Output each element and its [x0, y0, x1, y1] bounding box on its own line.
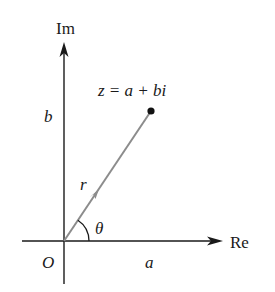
- angle-label: θ: [95, 220, 103, 237]
- point-z: [147, 107, 154, 114]
- modulus-vector: [64, 111, 151, 241]
- angle-arc: [78, 220, 89, 241]
- real-axis-label: Re: [230, 234, 249, 251]
- imaginary-axis-label: Im: [56, 20, 75, 37]
- origin-label: O: [42, 254, 54, 271]
- real-part-label: a: [145, 254, 154, 271]
- modulus-label: r: [80, 176, 87, 193]
- vector-arrowhead-icon: [90, 189, 99, 199]
- point-label: z = a + bi: [98, 82, 166, 99]
- imaginary-part-label: b: [44, 108, 53, 125]
